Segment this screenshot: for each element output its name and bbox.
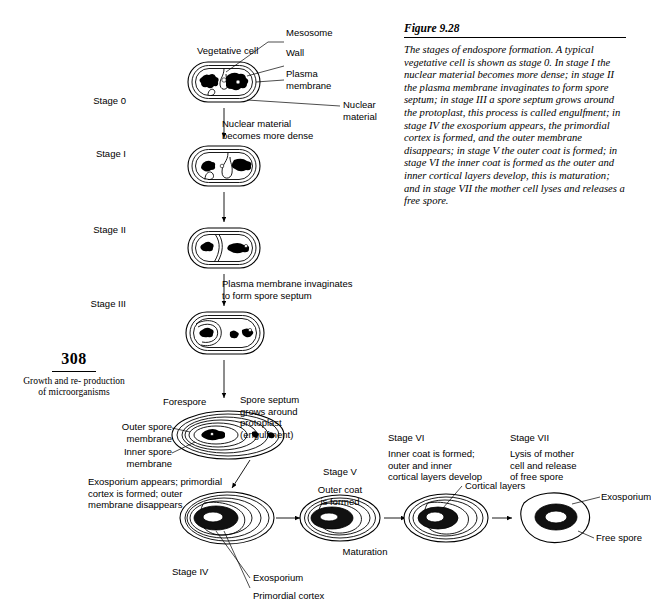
stage-1-label: Stage I: [34, 148, 126, 160]
cortical-layers-label: Cortical layers: [465, 480, 525, 492]
mesosome-label: Mesosome: [286, 27, 332, 39]
figure-title: Figure 9.28: [404, 22, 626, 34]
stage-5-note: Outer coat is formed: [300, 484, 380, 507]
stage-5-label: Stage V: [300, 466, 380, 478]
plasma-membrane-label: Plasma membrane: [286, 68, 331, 91]
stage-3-cell: [186, 312, 264, 354]
stage-2-cell: [188, 228, 260, 268]
stage-7-label: Stage VII: [510, 432, 549, 444]
stage-1-cell: [188, 146, 260, 186]
figure-caption-block: Figure 9.28 The stages of endospore form…: [404, 22, 626, 208]
maturation-label: Maturation: [320, 546, 410, 558]
free-spore-label: Free spore: [596, 532, 642, 544]
transition-0-to-1-text: Nuclear material becomes more dense: [222, 118, 313, 141]
vegetative-cell-label: Vegetative cell: [197, 45, 258, 57]
primordial-cortex-bottom-label: Primordial cortex: [253, 590, 324, 602]
stage-7-note: Lysis of mother cell and release of free…: [510, 448, 577, 483]
stage-6-note: Inner coat is formed; outer and inner co…: [388, 448, 482, 483]
running-head: Growth and re- production of microorgani…: [22, 376, 126, 398]
inner-spore-membrane-label: Inner spore membrane: [88, 446, 172, 469]
page-number: 308: [30, 350, 118, 368]
folio-divider: [52, 371, 96, 372]
stage-2-label: Stage II: [34, 224, 126, 236]
stage-3-label: Stage III: [34, 298, 126, 310]
nuclear-material-label: Nuclear material: [343, 99, 377, 122]
stage-4-note: Exosporium appears; primordial cortex is…: [88, 476, 222, 511]
wall-label: Wall: [286, 47, 304, 59]
exosporium-right-label: Exosporium: [601, 491, 651, 503]
figure-caption-text: The stages of endospore formation. A typ…: [404, 44, 626, 208]
transition-3-to-4-text: Spore septum grows around protoplast (en…: [240, 394, 299, 440]
figure-title-divider: [404, 37, 626, 38]
forespore-label: Forespore: [163, 396, 206, 408]
exosporium-bottom-label: Exosporium: [253, 572, 303, 584]
outer-spore-membrane-label: Outer spore membrane: [88, 421, 172, 444]
stage-6-label: Stage VI: [388, 432, 424, 444]
stage-6-cell: [404, 486, 512, 542]
stage-7-cell: [521, 493, 600, 543]
transition-2-to-3-text: Plasma membrane invaginates to form spor…: [222, 278, 352, 301]
stage-0-label: Stage 0: [34, 95, 126, 107]
stage-4-label: Stage IV: [172, 566, 208, 578]
